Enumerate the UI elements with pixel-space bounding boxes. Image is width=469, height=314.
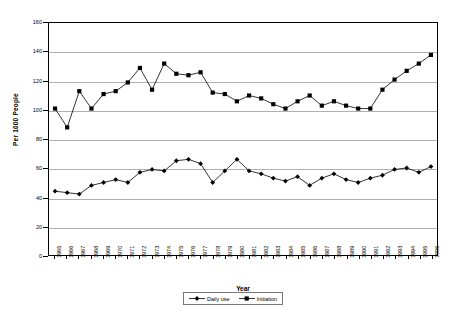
x-tick-label: 1985 [300,246,306,258]
x-tick-label: 1978 [215,246,221,258]
data-point [308,93,312,97]
data-point [126,80,130,84]
x-tick-label: 1976 [190,246,196,258]
x-tick-label: 1970 [117,246,123,258]
x-tick-label: 1972 [141,246,147,258]
x-tick-label: 1979 [227,246,233,258]
data-point [186,157,191,162]
data-point [283,179,288,184]
x-tick-label: 1982 [263,246,269,258]
data-point [295,99,299,103]
data-point [101,92,105,96]
data-point [53,189,58,194]
data-point [283,106,287,110]
x-tick-label: 1988 [336,246,342,258]
y-tick-label: 40 [0,195,42,201]
legend-square-icon [239,295,255,302]
legend-label: Daily use [207,296,230,302]
x-tick-label: 1996 [434,246,440,258]
x-tick-label: 1990 [361,246,367,258]
x-tick-label: 1992 [385,246,391,258]
data-point [404,166,409,171]
data-point [356,106,360,110]
series-line-initiation [55,55,431,128]
x-tick-label: 1980 [239,246,245,258]
data-point [392,77,396,81]
data-point [356,180,361,185]
legend-diamond-icon [189,295,205,302]
data-point [65,190,70,195]
x-tick-label: 1965 [56,246,62,258]
y-tick-label: 80 [0,136,42,142]
data-point [429,164,434,169]
data-point [53,106,57,110]
data-point [259,171,264,176]
data-point [416,170,421,175]
series-line-daily-use [55,159,431,194]
data-point [271,102,275,106]
data-point [380,173,385,178]
data-point [344,104,348,108]
x-tick-label: 1977 [202,246,208,258]
data-point [368,106,372,110]
data-series-svg [49,23,437,255]
y-tick-mark [43,256,48,257]
x-tick-label: 1975 [178,246,184,258]
x-tick-label: 1986 [312,246,318,258]
x-axis-labels: 1965196619671968196919701971197219731974… [48,258,438,288]
data-point [332,99,336,103]
data-point [417,62,421,66]
x-tick-label: 1981 [251,246,257,258]
data-point [114,89,118,93]
data-point [198,70,202,74]
x-tick-label: 1994 [410,246,416,258]
x-tick-label: 1983 [275,246,281,258]
y-axis: 020406080100120140160 [0,0,48,314]
y-tick-label: 100 [0,107,42,113]
data-point [405,69,409,73]
data-point [113,177,118,182]
x-tick-label: 1969 [105,246,111,258]
data-point [186,73,190,77]
data-point [65,125,69,129]
x-tick-label: 1991 [373,246,379,258]
data-point [198,161,203,166]
data-point [392,167,397,172]
plot-area [48,22,438,256]
chart-legend: Daily useInitiation [183,292,283,305]
y-tick-label: 60 [0,165,42,171]
legend-item: Daily use [189,295,230,302]
legend-item: Initiation [239,295,278,302]
data-point [247,93,251,97]
data-point [77,89,81,93]
data-point [162,62,166,66]
x-tick-label: 1993 [397,246,403,258]
legend-label: Initiation [257,296,278,302]
x-axis-title: Year [48,285,438,292]
data-point [271,176,276,181]
y-tick-label: 0 [0,253,42,259]
y-tick-label: 20 [0,224,42,230]
y-tick-label: 120 [0,78,42,84]
x-tick-label: 1989 [349,246,355,258]
data-point [259,96,263,100]
data-point [174,72,178,76]
y-axis-title: Per 1000 People [12,75,19,165]
x-tick-label: 1984 [288,246,294,258]
x-tick-label: 1987 [324,246,330,258]
x-tick-label: 1973 [154,246,160,258]
x-tick-label: 1968 [93,246,99,258]
data-point [223,92,227,96]
data-point [138,66,142,70]
data-point [380,88,384,92]
data-point [429,53,433,57]
y-tick-label: 160 [0,19,42,25]
data-point [235,99,239,103]
data-point [150,88,154,92]
data-point [150,167,155,172]
data-point [89,106,93,110]
data-point [319,176,324,181]
data-point [332,171,337,176]
x-tick-label: 1974 [166,246,172,258]
chart-container: 020406080100120140160 Per 1000 People 19… [0,0,469,314]
